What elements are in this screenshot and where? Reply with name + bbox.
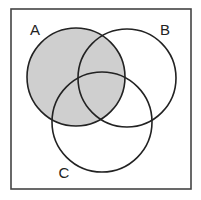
venn-diagram: A B C	[0, 0, 201, 200]
set-a-label: A	[30, 21, 40, 38]
set-c-label: C	[59, 164, 70, 181]
set-b-label: B	[160, 21, 170, 38]
